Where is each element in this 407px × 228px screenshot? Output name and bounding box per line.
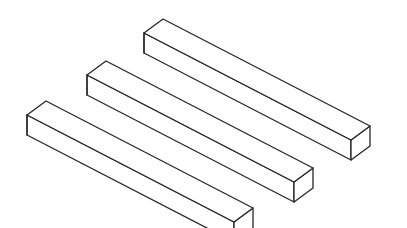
drawing-canvas: Three parallel rectangular prisms (bars)… xyxy=(0,0,407,228)
three-bars-figure: Three parallel rectangular prisms (bars)… xyxy=(0,0,407,228)
